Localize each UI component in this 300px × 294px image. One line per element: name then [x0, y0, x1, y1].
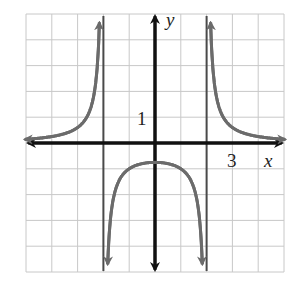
graph-canvas [0, 0, 300, 294]
axes [28, 16, 282, 270]
y-axis-label: y [166, 10, 174, 29]
x-tick-label-3: 3 [227, 151, 237, 170]
x-axis-label: x [264, 151, 272, 170]
y-tick-label-1: 1 [137, 109, 147, 128]
